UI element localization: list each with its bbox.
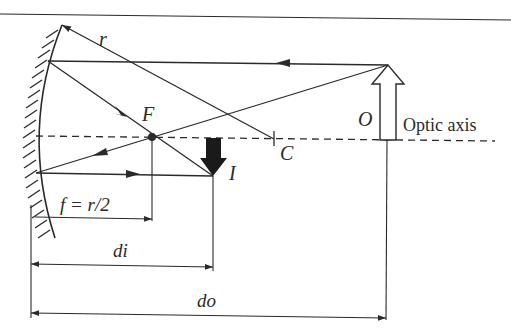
ray-arrow-icon xyxy=(276,59,290,67)
label-focal-length: f = r/2 xyxy=(60,194,110,215)
label-image-distance: di xyxy=(113,240,128,261)
label-object: O xyxy=(358,108,372,130)
focal-point-dot xyxy=(148,133,156,141)
label-center: C xyxy=(280,142,294,164)
ray-parallel-incident xyxy=(48,61,388,65)
label-radius: r xyxy=(99,28,107,50)
radius-line xyxy=(62,25,274,139)
concave-mirror-diagram: r F C O I Optic axis f = r/2 di do xyxy=(0,0,511,336)
label-focal-point: F xyxy=(141,103,155,125)
label-object-distance: do xyxy=(197,290,216,311)
object-distance-dimension xyxy=(31,313,386,318)
ray-parallel-reflected xyxy=(48,61,213,176)
object-arrow-icon xyxy=(372,65,404,140)
ray-arrow-icon xyxy=(92,148,108,156)
ray-arrow-icon xyxy=(126,170,140,178)
ray-focal-reflected xyxy=(36,173,213,176)
concave-mirror xyxy=(23,25,62,238)
optic-axis-line xyxy=(36,136,495,141)
label-optic-axis: Optic axis xyxy=(403,115,477,135)
object-reference-line xyxy=(386,140,387,320)
image-distance-dimension xyxy=(31,264,213,267)
focal-length-dimension xyxy=(35,217,152,219)
label-image: I xyxy=(228,162,237,184)
top-rule xyxy=(0,14,511,20)
